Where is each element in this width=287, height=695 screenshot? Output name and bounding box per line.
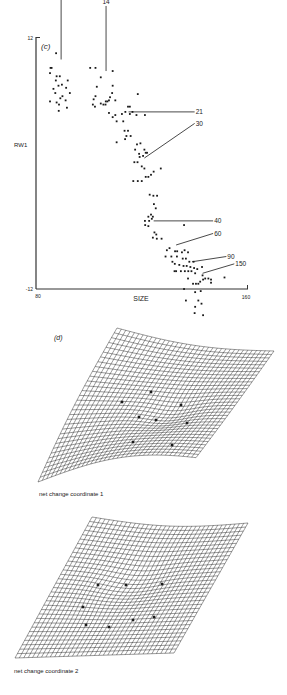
data-point — [146, 152, 148, 154]
grid-line — [50, 522, 126, 657]
landmark — [171, 444, 174, 447]
data-point — [147, 216, 149, 218]
data-point — [61, 84, 63, 86]
data-point — [108, 99, 110, 101]
data-point — [112, 70, 114, 72]
data-point — [151, 218, 153, 220]
data-point — [114, 99, 116, 101]
data-point — [160, 168, 162, 170]
data-point — [67, 80, 69, 82]
landmark — [153, 616, 156, 619]
data-point — [154, 232, 156, 234]
data-point — [176, 250, 178, 252]
data-point — [194, 306, 196, 308]
data-point — [105, 101, 107, 103]
data-point — [143, 168, 145, 170]
data-point — [126, 135, 128, 137]
x-axis-label: SIZE — [133, 295, 149, 302]
data-point — [188, 261, 190, 263]
data-point — [66, 107, 68, 109]
data-point — [137, 93, 139, 95]
data-point — [134, 149, 136, 151]
grid-line — [90, 376, 250, 385]
data-point — [144, 224, 146, 226]
data-point — [137, 180, 139, 182]
data-point — [105, 104, 107, 106]
grid-line — [103, 352, 262, 368]
data-point — [149, 194, 151, 196]
data-point — [199, 281, 201, 283]
caption-coordinate-2: net change coordinate 2 — [14, 668, 79, 674]
data-point — [224, 277, 226, 279]
annotation-leader — [176, 233, 213, 245]
scatter-panel-c: 12 -12 80 160 SIZE RW1 (c) 7142130406090… — [14, 0, 250, 316]
data-point — [201, 303, 203, 305]
data-point — [116, 120, 118, 122]
data-point — [138, 153, 140, 155]
landmark — [155, 419, 158, 422]
data-point — [165, 256, 167, 258]
x-tick-max: 160 — [242, 294, 251, 300]
data-point — [124, 130, 126, 132]
data-point — [51, 67, 53, 69]
landmark — [82, 606, 85, 609]
data-point — [148, 220, 150, 222]
mesh-panel-1: (d) net change coordinate 1 — [38, 328, 274, 497]
y-tick-max: 12 — [27, 35, 33, 41]
data-point — [136, 143, 138, 145]
data-point — [184, 270, 186, 272]
data-point — [210, 282, 212, 284]
data-point — [153, 171, 155, 173]
data-point — [58, 110, 60, 112]
grid-line — [152, 349, 230, 455]
data-point — [124, 138, 126, 140]
data-point — [106, 101, 108, 103]
grid-line — [130, 526, 205, 654]
data-point — [49, 72, 51, 74]
data-point — [145, 176, 147, 178]
data-point — [150, 174, 152, 176]
mesh-panel-2: net change coordinate 2 — [14, 517, 248, 674]
data-point — [178, 264, 180, 266]
data-point — [156, 238, 158, 240]
grid-line — [42, 521, 119, 657]
data-point — [141, 165, 143, 167]
data-point — [114, 114, 116, 116]
data-point — [143, 149, 145, 151]
data-point — [129, 113, 131, 115]
data-point — [108, 112, 110, 114]
data-point — [141, 180, 143, 182]
data-point — [153, 203, 155, 205]
grid-line — [46, 522, 122, 657]
data-point — [175, 270, 177, 272]
data-point — [147, 176, 149, 178]
data-point — [144, 220, 146, 222]
grid-line — [60, 425, 220, 434]
data-point — [147, 225, 149, 227]
grid-line — [91, 341, 170, 464]
grid-line — [82, 535, 238, 543]
data-point — [202, 274, 204, 276]
grid-line — [134, 526, 209, 655]
data-point — [124, 111, 126, 113]
data-point — [194, 291, 196, 293]
data-point — [112, 85, 114, 87]
data-point — [59, 97, 61, 99]
data-point — [194, 312, 196, 314]
grid-line — [139, 526, 214, 655]
grid-line — [108, 344, 187, 460]
grid-line — [170, 350, 248, 455]
grid-line — [29, 629, 187, 632]
data-point — [196, 268, 198, 270]
data-point — [152, 216, 154, 218]
data-point — [155, 207, 157, 209]
data-point — [144, 114, 146, 116]
data-point — [54, 92, 56, 94]
data-point — [116, 141, 118, 143]
data-point — [176, 256, 178, 258]
data-point — [94, 106, 96, 108]
landmark — [85, 624, 88, 627]
grid-line — [47, 330, 126, 478]
data-point — [187, 251, 189, 253]
data-point — [49, 101, 51, 103]
